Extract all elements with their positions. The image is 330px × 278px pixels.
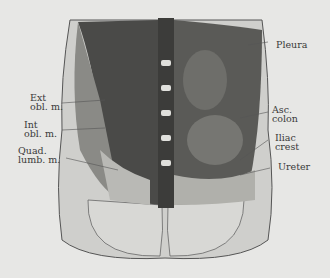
label-pleura: Pleura [276, 40, 307, 49]
label-ureter: Ureter [278, 162, 310, 171]
label-iliac-crest: Iliaccrest [275, 133, 299, 151]
label-quad-lumb-m: Quad.lumb. m. [18, 146, 60, 164]
label-asc-colon: Asc.colon [272, 105, 298, 123]
label-int-obl-m: Intobl. m. [24, 120, 57, 138]
label-ext-obl-m: Extobl. m. [30, 93, 63, 111]
